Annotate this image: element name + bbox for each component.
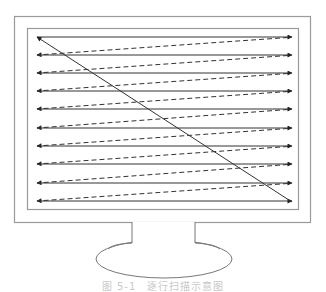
- scan-diagram: 图 5-1 逐行扫描示意图: [0, 0, 326, 292]
- monitor: [15, 17, 311, 279]
- retrace-line-arrow: [37, 129, 288, 147]
- retrace-line-arrow: [37, 184, 288, 202]
- scan-lines: [37, 37, 292, 202]
- retrace-line-arrow: [37, 38, 288, 56]
- monitor-neck-fill: [132, 222, 195, 243]
- retrace-line-arrow: [37, 92, 288, 110]
- monitor-scan-illustration: [0, 0, 326, 292]
- figure-caption: 图 5-1 逐行扫描示意图: [0, 281, 326, 292]
- monitor-base: [96, 240, 232, 278]
- monitor-bezel: [15, 17, 311, 223]
- vertical-retrace-arrow: [37, 37, 292, 202]
- retrace-line-arrow: [37, 165, 288, 184]
- retrace-line-arrow: [37, 147, 288, 165]
- retrace-line-arrow: [37, 74, 288, 92]
- retrace-line-arrow: [37, 56, 288, 74]
